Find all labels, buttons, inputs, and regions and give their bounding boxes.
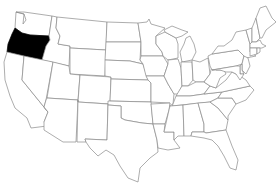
state-kansas[interactable]: [110, 79, 151, 102]
state-florida[interactable]: [191, 130, 238, 170]
state-indiana[interactable]: [181, 62, 193, 86]
state-north-dakota[interactable]: [106, 22, 141, 42]
state-montana[interactable]: [56, 17, 107, 50]
state-colorado[interactable]: [78, 75, 111, 104]
state-wyoming[interactable]: [70, 48, 106, 76]
state-connecticut[interactable]: [250, 48, 257, 56]
state-rhode-island[interactable]: [257, 48, 260, 54]
state-new-mexico[interactable]: [77, 100, 108, 142]
state-arizona[interactable]: [44, 98, 78, 142]
state-new-jersey[interactable]: [242, 56, 250, 74]
state-maine[interactable]: [256, 6, 276, 38]
us-states-map: [0, 0, 278, 185]
